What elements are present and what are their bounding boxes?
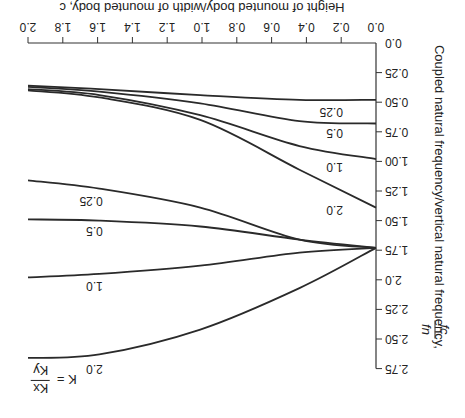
- x-tick-label: 0.2: [333, 20, 350, 34]
- y-tick-label: 1.75: [385, 243, 409, 257]
- curve-label: 0.25: [319, 105, 343, 119]
- chart-stage: 0.00.20.40.60.81.01.21.41.61.82.00.00.25…: [0, 0, 465, 418]
- x-tick-label: 2.0: [19, 20, 36, 34]
- svg-text:K =: K =: [57, 372, 77, 387]
- y-tick-label: 0.50: [385, 95, 409, 109]
- y-tick-label: 1.00: [385, 154, 409, 168]
- svg-text:Ky: Ky: [33, 363, 49, 378]
- y-tick-label: 2.50: [385, 332, 409, 346]
- x-tick-label: 0.4: [298, 20, 315, 34]
- x-tick-label: 1.4: [124, 20, 141, 34]
- y-tick-label: 2.25: [385, 302, 409, 316]
- x-axis-title: Height of mounted body/width of mounted …: [59, 0, 345, 15]
- curve-label: 1.0: [326, 160, 343, 174]
- x-tick-label: 1.6: [89, 20, 106, 34]
- y-tick-label: 2.0: [385, 273, 402, 287]
- svg-text:fc: fc: [437, 324, 452, 335]
- x-tick-label: 0.8: [228, 20, 245, 34]
- curve-label: 0.5: [86, 224, 103, 238]
- y-axis-title: Coupled natural frequency/vertical natur…: [432, 45, 447, 349]
- y-tick-label: 0.75: [385, 125, 409, 139]
- x-tick-label: 1.2: [159, 20, 176, 34]
- curve-k-2-0-upper-mode-: [28, 248, 376, 358]
- curve-label: 2.0: [326, 203, 343, 217]
- svg-text:fn: fn: [419, 324, 434, 335]
- x-tick-label: 1.8: [54, 20, 71, 34]
- axes: 0.00.20.40.60.81.01.21.41.61.82.00.00.25…: [19, 20, 408, 376]
- y-tick-label: 1.25: [385, 184, 409, 198]
- curves: [28, 86, 376, 358]
- x-tick-label: 1.0: [193, 20, 210, 34]
- line-chart: 0.00.20.40.60.81.01.21.41.61.82.00.00.25…: [0, 0, 465, 418]
- y-tick-label: 0.0: [385, 36, 402, 50]
- y-tick-label: 0.25: [385, 66, 409, 80]
- svg-text:Kx: Kx: [33, 381, 49, 396]
- curve-label: 1.0: [86, 279, 103, 293]
- curve-k-1-0-upper-mode-: [28, 248, 376, 278]
- y-tick-label: 1.50: [385, 214, 409, 228]
- curve-k-0-25-upper-mode-: [28, 180, 376, 247]
- curve-label: 2.0: [86, 362, 103, 376]
- legend-k-ratio: K =KxKy: [31, 363, 77, 396]
- y-tick-label: 2.75: [385, 362, 409, 376]
- x-tick-label: 0.6: [263, 20, 280, 34]
- curve-label: 0.5: [326, 126, 343, 140]
- curve-label: 0.25: [79, 194, 103, 208]
- x-tick-label: 0.0: [367, 20, 384, 34]
